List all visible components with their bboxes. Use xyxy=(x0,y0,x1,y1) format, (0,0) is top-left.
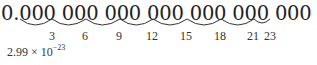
sci-exponent: −23 xyxy=(53,43,66,52)
arc-label: 21 xyxy=(247,29,259,44)
arc-label: 23 xyxy=(264,29,276,44)
arc-1 xyxy=(20,19,52,25)
sci-mantissa: 2.99 × 10 xyxy=(7,45,53,59)
arc-4 xyxy=(120,19,153,25)
arc-8 xyxy=(254,19,270,23)
arc-5 xyxy=(153,19,187,25)
arc-label: 15 xyxy=(180,29,192,44)
arc-3 xyxy=(86,19,120,25)
arc-2 xyxy=(52,19,86,25)
arc-6 xyxy=(187,19,221,25)
arc-label: 3 xyxy=(49,29,55,44)
scientific-notation: 2.99 × 10−23 xyxy=(7,44,65,60)
arc-label: 12 xyxy=(146,29,158,44)
arc-label: 6 xyxy=(82,29,88,44)
arc-7 xyxy=(221,19,254,25)
arc-label: 18 xyxy=(214,29,226,44)
arc-label: 9 xyxy=(116,29,122,44)
